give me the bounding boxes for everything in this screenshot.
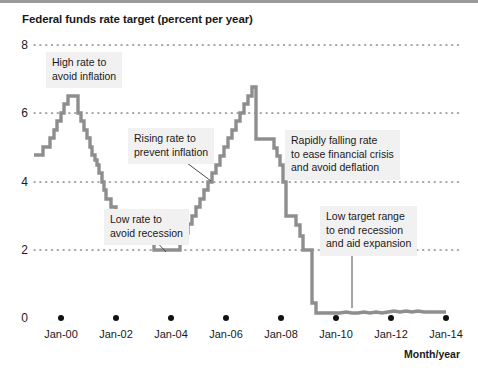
x-axis-title: Month/year <box>404 348 460 360</box>
annotation-high-rate: High rate to avoid inflation <box>46 52 122 88</box>
annotation-low-target-range-line-2: to end recession <box>326 224 411 238</box>
annotation-low-target-range-line-1: Low target range <box>326 210 411 224</box>
annotation-rising-rate-line-2: prevent inflation <box>134 146 208 160</box>
y-tick-label-6: 6 <box>14 106 28 120</box>
fed-funds-rate-line <box>34 87 446 313</box>
x-tick-dot <box>58 315 64 321</box>
x-tick-label-jan-00: Jan-00 <box>31 328 91 340</box>
annotation-rapidly-falling-line-1: Rapidly falling rate <box>291 134 394 148</box>
x-tick-dot <box>388 315 394 321</box>
annotation-low-rate: Low rate to avoid recession <box>104 209 189 245</box>
annotation-rapidly-falling-line-3: and avoid deflation <box>291 161 394 175</box>
y-tick-label-0: 0 <box>14 311 28 325</box>
x-tick-label-jan-12: Jan-12 <box>361 328 421 340</box>
x-tick-dot <box>278 315 284 321</box>
x-tick-label-jan-10: Jan-10 <box>306 328 366 340</box>
annotation-low-target-range-line-3: and aid expansion <box>326 237 411 251</box>
annotation-low-target-range: Low target range to end recession and ai… <box>320 206 417 256</box>
x-tick-dot <box>333 315 339 321</box>
annotation-high-rate-line-2: avoid inflation <box>52 70 116 84</box>
annotation-high-rate-line-1: High rate to <box>52 56 116 70</box>
x-tick-label-jan-08: Jan-08 <box>251 328 311 340</box>
annotation-rising-rate-line-1: Rising rate to <box>134 132 208 146</box>
x-tick-dot <box>168 315 174 321</box>
y-tick-label-4: 4 <box>14 175 28 189</box>
x-tick-label-jan-04: Jan-04 <box>141 328 201 340</box>
x-tick-dot <box>113 315 119 321</box>
annotation-low-rate-line-2: avoid recession <box>110 227 183 241</box>
x-tick-label-jan-02: Jan-02 <box>86 328 146 340</box>
x-tick-label-jan-06: Jan-06 <box>196 328 256 340</box>
x-tick-dot <box>443 315 449 321</box>
annotation-low-rate-line-1: Low rate to <box>110 213 183 227</box>
x-tick-label-jan-14: Jan-14 <box>416 328 476 340</box>
y-tick-label-2: 2 <box>14 243 28 257</box>
y-tick-label-8: 8 <box>14 38 28 52</box>
annotation-rapidly-falling: Rapidly falling rate to ease financial c… <box>285 130 400 180</box>
x-tick-dot <box>223 315 229 321</box>
annotation-rising-rate: Rising rate to prevent inflation <box>128 128 214 164</box>
annotation-rapidly-falling-line-2: to ease financial crisis <box>291 148 394 162</box>
